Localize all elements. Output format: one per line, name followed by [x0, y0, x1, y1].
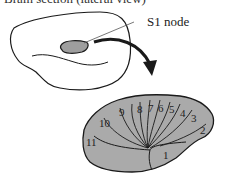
segment-label-1: 1: [163, 150, 169, 161]
segment-label-11: 11: [86, 137, 97, 148]
segment-label-2: 2: [200, 125, 206, 136]
s1-node-region: [61, 41, 89, 54]
segment-label-5: 5: [169, 104, 175, 115]
segment-label-8: 8: [137, 104, 143, 115]
segment-label-6: 6: [158, 103, 164, 114]
segment-label-3: 3: [191, 113, 197, 124]
arrow-head: [143, 60, 157, 76]
segment-label-7: 7: [148, 103, 154, 114]
s1-node-label: S1 node: [147, 14, 189, 30]
segment-label-4: 4: [180, 108, 186, 119]
segment-label-10: 10: [99, 118, 110, 129]
segment-label-9: 9: [119, 107, 125, 118]
diagram-drawing: [0, 0, 225, 184]
diagram: Brain section (lateral view): [0, 0, 225, 184]
